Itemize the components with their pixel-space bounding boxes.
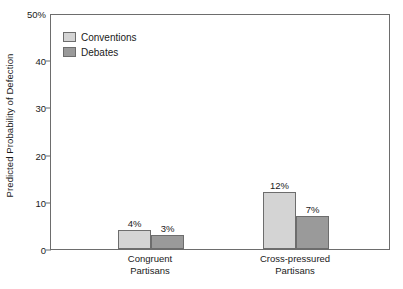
legend: Conventions Debates xyxy=(63,31,137,61)
y-axis-tick-label: 10 xyxy=(18,197,46,208)
x-axis-category-label: CongruentPartisans xyxy=(128,253,172,276)
legend-label-debates: Debates xyxy=(81,47,118,58)
x-axis-category-label-line: Partisans xyxy=(128,265,172,277)
bar-debates-group-2: 7% xyxy=(296,216,329,249)
y-axis-ticks: 01020304050% xyxy=(14,0,46,289)
y-axis-tick-label: 30 xyxy=(18,103,46,114)
bar-value-label: 4% xyxy=(128,218,142,229)
y-axis-tick-label: 40 xyxy=(18,56,46,67)
y-axis-tick-label: 20 xyxy=(18,150,46,161)
y-axis-tick-label: 0 xyxy=(18,245,46,256)
bar-value-label: 7% xyxy=(306,204,320,215)
bar-value-label: 12% xyxy=(270,180,289,191)
x-axis-category-label-line: Cross-pressured xyxy=(260,253,330,265)
bar-chart-figure: Predicted Probability of Defection 01020… xyxy=(0,0,403,289)
x-axis-category-label: Cross-pressuredPartisans xyxy=(260,253,330,276)
legend-item-debates: Debates xyxy=(63,46,137,58)
bar-conventions-group-1: 4% xyxy=(118,230,151,249)
bar-conventions-group-2: 12% xyxy=(263,192,296,249)
plot-area: Conventions Debates 4%3%12%7% xyxy=(50,14,390,250)
legend-item-conventions: Conventions xyxy=(63,31,137,43)
bar-value-label: 3% xyxy=(161,223,175,234)
bar-debates-group-1: 3% xyxy=(151,235,184,249)
x-axis-category-label-line: Partisans xyxy=(260,265,330,277)
legend-swatch-debates xyxy=(63,47,76,57)
y-axis-tick-label: 50% xyxy=(18,9,46,20)
legend-swatch-conventions xyxy=(63,32,76,42)
legend-label-conventions: Conventions xyxy=(81,32,137,43)
x-axis-category-label-line: Congruent xyxy=(128,253,172,265)
